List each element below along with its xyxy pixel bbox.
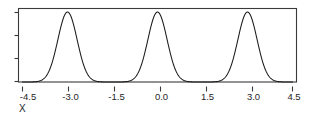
x-tick-label-3: 0.0 (155, 91, 168, 102)
chart-figure: -4.5 -3.0 -1.5 0.0 1.5 3.0 4.5 X (0, 0, 320, 117)
x-axis-label: X (19, 103, 26, 114)
x-tick-label-6: 4.5 (287, 91, 300, 102)
x-tick-label-1: -3.0 (62, 91, 78, 102)
x-tick-label-5: 3.0 (247, 91, 260, 102)
plot-svg: -4.5 -3.0 -1.5 0.0 1.5 3.0 4.5 X (0, 0, 320, 117)
x-tick-label-2: -1.5 (108, 91, 124, 102)
x-tick-label-4: 1.5 (201, 91, 214, 102)
x-tick-labels: -4.5 -3.0 -1.5 0.0 1.5 3.0 4.5 (20, 91, 301, 102)
x-tick-label-0: -4.5 (20, 91, 36, 102)
